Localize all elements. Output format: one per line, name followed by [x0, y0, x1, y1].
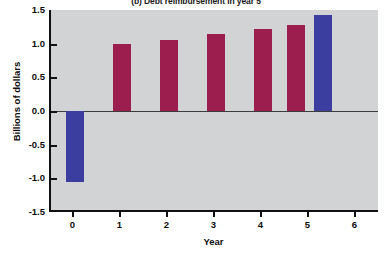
x-tick — [119, 212, 121, 217]
y-axis-title: Billions of dollars — [11, 32, 22, 172]
bar-chart: (b) Debt reimbursement in year 5 1.51.00… — [0, 0, 392, 262]
x-tick-label: 5 — [293, 219, 323, 230]
x-tick — [213, 212, 215, 217]
plot-area — [49, 10, 378, 212]
x-tick-label: 4 — [246, 219, 276, 230]
y-tick — [51, 145, 57, 147]
x-axis-labels: 0123456 — [49, 219, 378, 233]
y-tick-label: -1.0 — [5, 172, 45, 183]
x-axis-ticks — [49, 212, 378, 218]
y-tick — [51, 77, 57, 79]
y-tick-label: -1.5 — [5, 206, 45, 217]
x-tick-label: 2 — [152, 219, 182, 230]
bar-0 — [66, 111, 84, 182]
x-tick — [72, 212, 74, 217]
zero-baseline — [51, 111, 378, 112]
bar-4 — [254, 29, 272, 111]
x-tick-label: 0 — [58, 219, 88, 230]
y-tick-label: 1.5 — [5, 4, 45, 15]
bar-3 — [207, 34, 225, 111]
bar-1 — [113, 44, 131, 111]
y-tick — [51, 44, 57, 46]
bar-5b — [314, 15, 332, 111]
x-tick — [260, 212, 262, 217]
x-tick-label: 1 — [105, 219, 135, 230]
bar-5 — [287, 25, 305, 111]
x-tick — [166, 212, 168, 217]
plot-inner — [51, 10, 378, 210]
y-tick — [51, 178, 57, 180]
x-tick-label: 6 — [340, 219, 370, 230]
y-axis-labels: 1.51.00.50.0-0.5-1.0-1.5 — [0, 10, 45, 212]
y-tick — [51, 111, 57, 113]
x-tick — [354, 212, 356, 217]
x-tick — [307, 212, 309, 217]
bar-2 — [160, 40, 178, 111]
x-axis-title: Year — [49, 236, 378, 247]
x-tick-label: 3 — [199, 219, 229, 230]
chart-title: (b) Debt reimbursement in year 5 — [0, 0, 392, 6]
